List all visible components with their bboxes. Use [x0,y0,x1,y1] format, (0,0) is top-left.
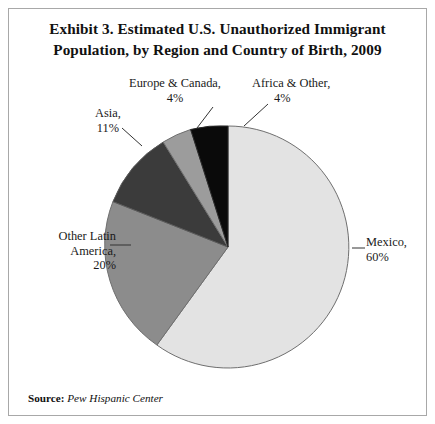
pie-label-europe-canada-name: Europe & Canada, [120,76,230,91]
pie-label-africa-other-name: Africa & Other, [252,76,362,91]
pie-label-other-latin-america: Other Latin America, 20% [8,229,116,273]
pie-label-europe-canada: Europe & Canada, 4% [120,76,230,105]
pie-label-asia-value: 11% [84,121,132,136]
pie-label-africa-other-value: 4% [252,91,362,106]
pie-chart: Europe & Canada, 4% Africa & Other, 4% A… [0,0,435,424]
pie-label-africa-other: Africa & Other, 4% [252,76,362,105]
pie-chart-svg [0,0,435,424]
pie-label-asia-name: Asia, [84,106,132,121]
pie-label-europe-canada-value: 4% [120,91,230,106]
leader-line-africa-other [244,104,268,126]
pie-label-mexico: Mexico, 60% [366,235,430,264]
pie-label-other-latin-america-value: 20% [8,258,116,273]
source-note-label: Source: [28,392,64,404]
source-note: Source: Pew Hispanic Center [28,392,163,404]
pie-label-other-latin-america-name-2: America, [8,244,116,259]
pie-label-mexico-name: Mexico, [366,235,430,250]
pie-label-mexico-value: 60% [366,250,430,265]
leader-line-europe-canada [197,107,213,128]
pie-label-other-latin-america-name-1: Other Latin [8,229,116,244]
exhibit-figure: Exhibit 3. Estimated U.S. Unauthorized I… [0,0,435,424]
source-note-value: Pew Hispanic Center [67,392,163,404]
pie-label-asia: Asia, 11% [84,106,132,135]
